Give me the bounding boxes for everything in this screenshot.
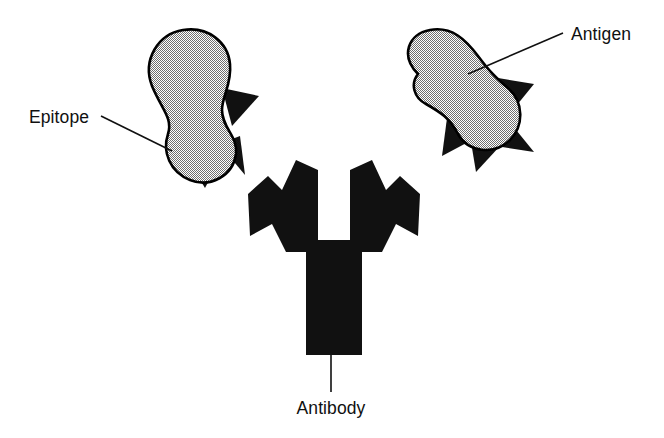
figure-background	[0, 0, 664, 438]
antibody-label: Antibody	[297, 398, 366, 418]
epitope-label: Epitope	[29, 107, 89, 127]
antibody-stem	[306, 240, 362, 355]
antibody-antigen-diagram: Epitope Antigen Antibody	[0, 0, 664, 438]
figure-root: Epitope Antigen Antibody	[0, 0, 664, 438]
antigen-label: Antigen	[571, 24, 631, 44]
